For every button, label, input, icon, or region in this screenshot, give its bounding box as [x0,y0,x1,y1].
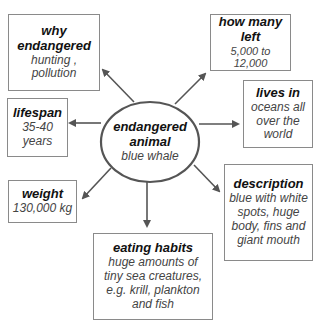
node-title: eating habits [113,241,193,256]
center-detail: blue whale [121,150,178,164]
node-title: how many [219,15,283,30]
node-eating-habits: eating habits huge amounts of tiny sea c… [93,233,213,320]
node-title: lives in [256,86,300,101]
arrow-why-endangered [103,70,134,102]
node-detail: huge amounts of [108,256,197,270]
arrow-how-many-left [175,74,205,104]
node-how-many-left: how many left 5,000 to 12,000 [210,14,291,71]
node-detail: over the [256,115,299,129]
node-title: endangered [17,39,91,54]
node-detail: blue with white [229,192,308,206]
node-detail: body, fins and [232,220,306,234]
node-title: why [41,24,66,39]
center-title-line1: endangered [113,120,187,135]
node-title: lifespan [13,106,62,121]
node-detail: world [264,128,293,142]
center-title-line2: animal [129,135,170,150]
node-why-endangered: why endangered hunting , pollution [8,14,100,91]
node-detail: 5,000 to 12,000 [214,45,287,70]
node-lifespan: lifespan 35-40 years [7,98,68,157]
node-detail: and fish [132,298,174,312]
node-detail: 35-40 [22,121,53,135]
node-detail: pollution [32,67,77,81]
node-detail: e.g. krill, plankton [106,284,199,298]
node-detail: tiny sea creatures, [104,270,202,284]
node-description: description blue with white spots, huge … [224,164,313,261]
mind-map-diagram: endangered animal blue whale why endange… [0,0,318,328]
node-detail: spots, huge [237,206,299,220]
node-detail: hunting , [31,54,77,68]
node-lives-in: lives in oceans all over the world [243,80,313,148]
node-detail: years [23,135,52,149]
node-weight: weight 130,000 kg [8,180,77,223]
node-detail: giant mouth [237,234,300,248]
node-detail: oceans all [251,101,305,115]
node-title: left [241,30,261,45]
node-title: description [233,177,303,192]
node-detail: 130,000 kg [13,202,72,216]
center-node: endangered animal blue whale [101,104,199,180]
node-title: weight [22,187,63,202]
